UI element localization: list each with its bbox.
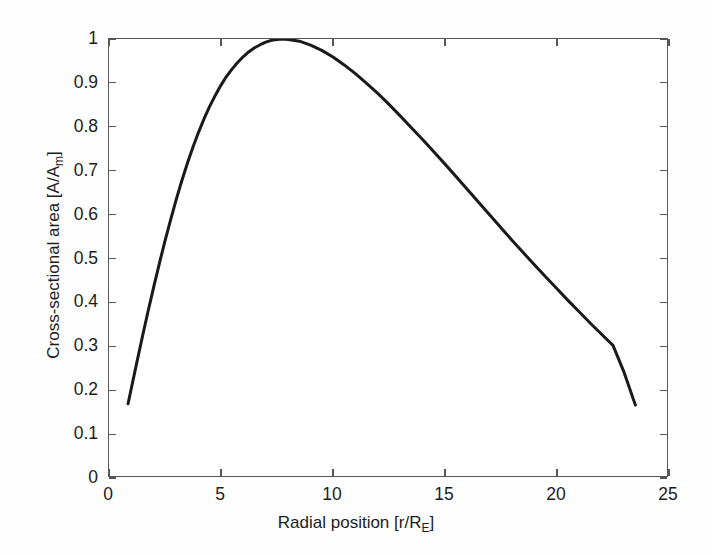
x-axis-title: Radial position [r/RE] — [0, 513, 712, 533]
x-axis-tick-label: 10 — [312, 485, 352, 503]
x-axis-title-prefix: Radial position [r/R — [278, 513, 422, 532]
x-axis-tick-label: 15 — [424, 485, 464, 503]
chart-figure: 00.10.20.30.40.50.60.70.80.91 0510152025… — [0, 0, 712, 557]
x-axis-tick-label: 5 — [200, 485, 240, 503]
x-axis-tick-label: 25 — [648, 485, 688, 503]
x-axis-title-suffix: ] — [429, 513, 434, 532]
x-axis-tick-label: 20 — [536, 485, 576, 503]
x-axis-tick-label: 0 — [88, 485, 128, 503]
curve-path — [128, 39, 635, 405]
plot-area — [108, 38, 668, 477]
y-axis-title: Cross-sectional area [A/Am] — [44, 45, 64, 465]
y-axis-title-suffix: ] — [44, 151, 63, 156]
y-axis-tick-label: 0 — [36, 468, 98, 486]
data-curve — [109, 39, 669, 478]
y-axis-title-subscript: m — [52, 156, 66, 166]
y-axis-title-prefix: Cross-sectional area [A/A — [44, 166, 63, 359]
